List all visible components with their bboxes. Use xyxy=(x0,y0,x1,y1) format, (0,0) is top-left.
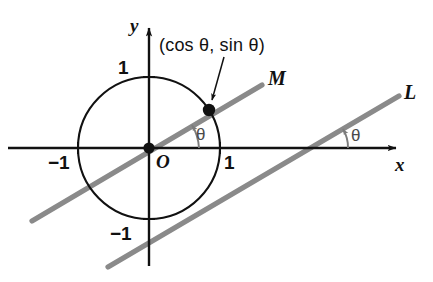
y-axis-label: y xyxy=(130,16,138,35)
theta-label-line-l: θ xyxy=(351,127,360,144)
origin-dot xyxy=(143,142,154,153)
point-leader-arrow xyxy=(212,57,224,100)
line-l-label: L xyxy=(404,82,416,102)
theta-label-origin: θ xyxy=(196,126,205,143)
line-m-label: M xyxy=(268,68,286,88)
point-coordinates-label: (cos θ, sin θ) xyxy=(159,36,265,54)
angle-arc-line-l xyxy=(343,129,348,148)
origin-label: O xyxy=(156,152,170,171)
x-axis-label: x xyxy=(395,155,405,174)
y-tick-label-one: 1 xyxy=(118,58,129,77)
unit-circle-figure: y x 1 −1 −1 1 O (cos θ, sin θ) M L θ θ xyxy=(0,0,433,282)
y-tick-label-negative-one: −1 xyxy=(110,224,132,243)
x-tick-label-negative-one: −1 xyxy=(48,153,70,172)
line-l xyxy=(108,96,399,267)
x-tick-label-one: 1 xyxy=(224,153,235,172)
point-on-circle xyxy=(203,104,215,116)
